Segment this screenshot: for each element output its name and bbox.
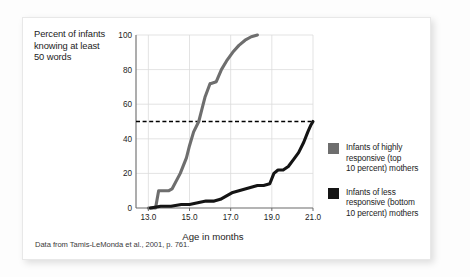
y-tick-label: 100	[118, 31, 132, 40]
legend-item-label: Infants of lessresponsive (bottom10 perc…	[346, 187, 418, 219]
line-chart-svg: 02040608010013.015.017.019.021.0	[113, 26, 323, 241]
y-axis-title-text: Percent of infants knowing at least 50 w…	[34, 28, 105, 62]
chart-legend: Infants of highlyresponsive (top10 perce…	[328, 142, 470, 232]
y-tick-label: 0	[127, 204, 132, 213]
y-tick-label: 60	[123, 100, 133, 109]
legend-swatch-icon	[328, 143, 339, 154]
x-tick-label: 21.0	[305, 213, 321, 222]
x-axis-title-text: Age in months	[182, 231, 243, 242]
source-citation-text: Data from Tamis-LeMonda et al., 2001, p.…	[35, 240, 189, 249]
x-tick-label: 13.0	[140, 213, 156, 222]
legend-swatch-icon	[328, 188, 339, 199]
x-tick-label: 15.0	[182, 213, 198, 222]
legend-item-label: Infants of highlyresponsive (top10 perce…	[346, 142, 418, 174]
y-tick-label: 80	[123, 66, 133, 75]
source-citation: Data from Tamis-LeMonda et al., 2001, p.…	[35, 240, 189, 249]
figure-card: Percent of infants knowing at least 50 w…	[22, 17, 431, 260]
y-axis-title: Percent of infants knowing at least 50 w…	[34, 28, 112, 63]
legend-item-0[interactable]: Infants of highlyresponsive (top10 perce…	[328, 142, 470, 174]
y-tick-label: 40	[123, 135, 133, 144]
x-tick-label: 19.0	[264, 213, 280, 222]
legend-item-1[interactable]: Infants of lessresponsive (bottom10 perc…	[328, 187, 470, 219]
y-tick-label: 20	[123, 169, 133, 178]
x-tick-label: 17.0	[223, 213, 239, 222]
screenshot-root: Percent of infants knowing at least 50 w…	[0, 0, 470, 277]
series-line-1	[150, 122, 313, 209]
chart-plot-area: 02040608010013.015.017.019.021.0	[113, 26, 323, 241]
